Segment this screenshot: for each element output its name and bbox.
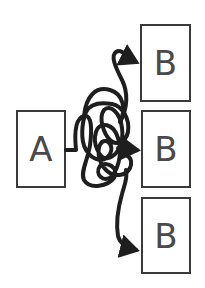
tangled-connector	[0, 0, 205, 288]
arrow-to-bottom-b	[117, 170, 136, 250]
arrow-to-middle-b	[118, 148, 137, 150]
